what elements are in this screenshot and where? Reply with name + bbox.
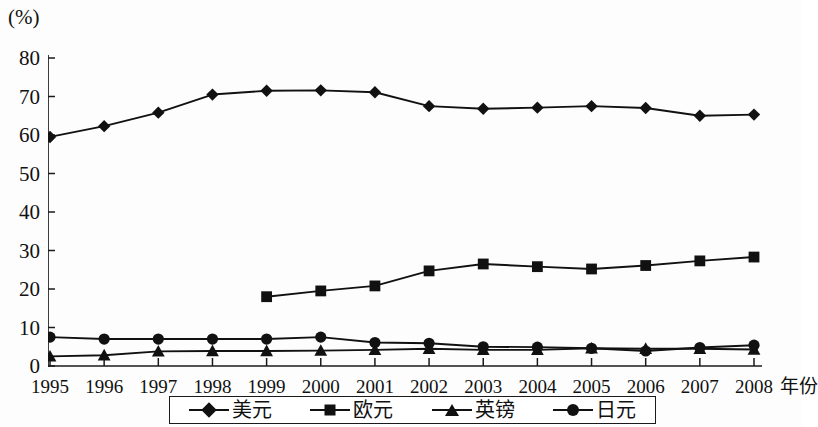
series-0 [48,84,760,143]
diamond-marker [206,88,218,100]
plot-area [48,55,764,369]
chart-legend: 美元欧元英镑日元 [169,396,656,424]
diamond-marker [369,86,381,98]
circle-marker [99,333,110,344]
legend-label: 日元 [596,400,636,420]
y-axis-tick-label: 80 [0,48,40,69]
legend-item-3[interactable]: 日元 [551,400,638,420]
legend-label: 欧元 [353,400,393,420]
y-axis-tick-label: 0 [0,356,40,377]
diamond-marker [585,100,597,112]
diamond-marker [639,102,651,114]
y-axis-tick-label: 70 [0,87,40,108]
plot-svg [48,55,764,369]
circle-marker [153,333,164,344]
circle-marker [553,402,593,418]
series-1 [261,252,759,302]
square-marker [478,259,489,270]
triangle-marker [432,402,472,418]
circle-marker [694,342,705,353]
diamond-marker [531,101,543,113]
square-marker [640,260,651,271]
square-marker [694,255,705,266]
diamond-marker [423,100,435,112]
legend-item-0[interactable]: 美元 [187,400,274,420]
circle-marker [48,332,56,343]
x-axis-title: 年份 [780,377,818,396]
x-axis-tick-label: 2000 [302,377,340,396]
x-axis-tick-label: 2008 [735,377,773,396]
diamond-marker [260,85,272,97]
circle-marker [315,332,326,343]
legend-item-2[interactable]: 英镑 [430,400,517,420]
square-marker [749,252,760,263]
square-marker-glyph [325,405,336,416]
circle-marker-glyph [567,404,579,416]
circle-marker [532,342,543,353]
x-axis-tick-label: 2007 [681,377,719,396]
x-axis-tick-label: 2005 [573,377,611,396]
series-2 [48,342,760,362]
diamond-marker-glyph [201,402,217,418]
square-marker [532,261,543,272]
y-axis-tick-label: 60 [0,125,40,146]
diamond-marker [748,108,760,120]
circle-marker [478,341,489,352]
diamond-marker [48,131,56,143]
y-axis-tick-label: 40 [0,202,40,223]
x-axis-tick-label: 1999 [248,377,286,396]
y-axis-unit-label: (%) [8,4,39,30]
x-axis-tick-label: 1997 [139,377,177,396]
circle-marker [369,337,380,348]
circle-marker [423,338,434,349]
square-marker [261,291,272,302]
x-axis-tick-label: 2003 [464,377,502,396]
y-axis-tick-label: 50 [0,164,40,185]
circle-marker [640,345,651,356]
x-axis-tick-label: 1996 [85,377,123,396]
y-axis-tick-label: 30 [0,241,40,262]
diamond-marker [98,120,110,132]
legend-label: 英镑 [475,400,515,420]
legend-item-1[interactable]: 欧元 [308,400,395,420]
circle-marker [207,333,218,344]
square-marker [424,266,435,277]
x-axis-tick-label: 1998 [193,377,231,396]
square-marker [370,281,381,292]
series-line [267,257,754,297]
y-axis-tick-label: 20 [0,279,40,300]
triangle-marker-glyph [445,404,459,416]
square-marker [315,286,326,297]
circle-marker [586,343,597,354]
square-marker [310,402,350,418]
square-marker [586,264,597,275]
x-axis-tick-label: 2001 [356,377,394,396]
x-axis-tick-label: 2002 [410,377,448,396]
legend-label: 美元 [232,400,272,420]
circle-marker [261,333,272,344]
circle-marker [748,340,759,351]
x-axis-tick-label: 1995 [31,377,69,396]
x-axis-tick-label: 2006 [627,377,665,396]
y-axis-tick-label: 10 [0,318,40,339]
diamond-marker [315,84,327,96]
x-axis-tick-label: 2004 [518,377,556,396]
diamond-marker [189,402,229,418]
diamond-marker [152,106,164,118]
diamond-marker [477,103,489,115]
diamond-marker [694,110,706,122]
